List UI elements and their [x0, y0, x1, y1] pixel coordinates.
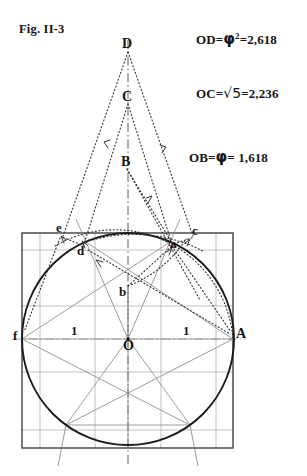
point-label-C: C — [122, 89, 132, 105]
formula-ob-symbol: φ — [216, 148, 228, 166]
point-label-O: O — [123, 338, 134, 354]
formula-oc-value: =2,236 — [241, 86, 278, 101]
point-label-a: a — [170, 236, 177, 252]
unit-label-left: 1 — [71, 323, 78, 339]
point-label-A: A — [236, 326, 246, 342]
unit-label-right: 1 — [183, 323, 190, 339]
arrowhead-C-right — [160, 145, 166, 153]
point-label-b: b — [119, 284, 126, 300]
figure-root: Fig. II-3 OD=φ2=2,618 OC=√5=2,236 OB=φ= … — [0, 0, 307, 476]
geometry-canvas — [0, 0, 307, 476]
formula-oc: OC=√5=2,236 — [196, 85, 279, 102]
point-label-d: d — [77, 243, 84, 259]
arrowhead-B-right — [146, 196, 152, 203]
point-label-D: D — [122, 36, 132, 52]
formula-oc-lhs: OC= — [196, 86, 223, 101]
arrowhead-C-left — [104, 140, 110, 148]
point-label-B: B — [121, 154, 130, 170]
chord-d-A — [88, 250, 230, 334]
ray-C-d — [84, 104, 128, 244]
ray-B-right — [127, 169, 200, 300]
point-label-c: c — [192, 223, 198, 239]
ray-C-a — [128, 104, 172, 244]
formula-ob: OB=φ= 1,618 — [189, 148, 268, 166]
formula-od-value: =2,618 — [240, 32, 277, 47]
link-a-c — [174, 237, 194, 244]
formula-od-symbol: φ — [223, 30, 235, 48]
formula-ob-lhs: OB= — [189, 150, 216, 165]
figure-caption: Fig. II-3 — [19, 22, 65, 37]
point-label-f: f — [13, 328, 17, 344]
point-label-e: e — [56, 220, 62, 236]
chord-b-a — [128, 246, 172, 286]
formula-od: OD=φ2=2,618 — [196, 30, 277, 48]
arrowhead-d-right — [96, 260, 103, 267]
formula-ob-value: = 1,618 — [227, 150, 268, 165]
formula-od-lhs: OD= — [196, 32, 223, 47]
formula-oc-symbol: √5 — [223, 85, 241, 101]
